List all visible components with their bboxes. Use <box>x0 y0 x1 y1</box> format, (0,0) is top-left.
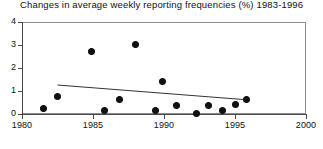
y-tick-label: 0 <box>2 109 16 118</box>
x-tick <box>164 114 165 119</box>
data-point <box>220 108 225 113</box>
chart-title: Changes in average weekly reporting freq… <box>20 0 303 10</box>
y-tick-label: 3 <box>2 40 16 49</box>
x-tick-label: 1990 <box>144 121 184 130</box>
data-point <box>55 94 60 99</box>
x-tick <box>93 114 94 119</box>
data-point <box>117 97 122 102</box>
data-point <box>102 108 107 113</box>
data-point <box>174 103 179 108</box>
y-tick-label: 2 <box>2 63 16 72</box>
data-point <box>206 103 211 108</box>
chart-root: Changes in average weekly reporting freq… <box>0 0 323 149</box>
data-point <box>233 102 238 107</box>
x-tick-label: 1980 <box>2 121 42 130</box>
data-point <box>194 111 199 116</box>
data-point <box>133 42 138 47</box>
trend-line <box>22 22 306 114</box>
data-point <box>160 79 165 84</box>
x-tick-label: 1985 <box>73 121 113 130</box>
x-tick <box>22 114 23 119</box>
y-tick-label: 1 <box>2 86 16 95</box>
x-tick-label: 2000 <box>286 121 323 130</box>
data-point <box>244 97 249 102</box>
x-tick <box>306 114 307 119</box>
x-tick-label: 1995 <box>215 121 255 130</box>
data-point <box>153 108 158 113</box>
x-tick <box>235 114 236 119</box>
y-tick-label: 4 <box>2 17 16 26</box>
data-point <box>89 49 94 54</box>
data-point <box>41 106 46 111</box>
